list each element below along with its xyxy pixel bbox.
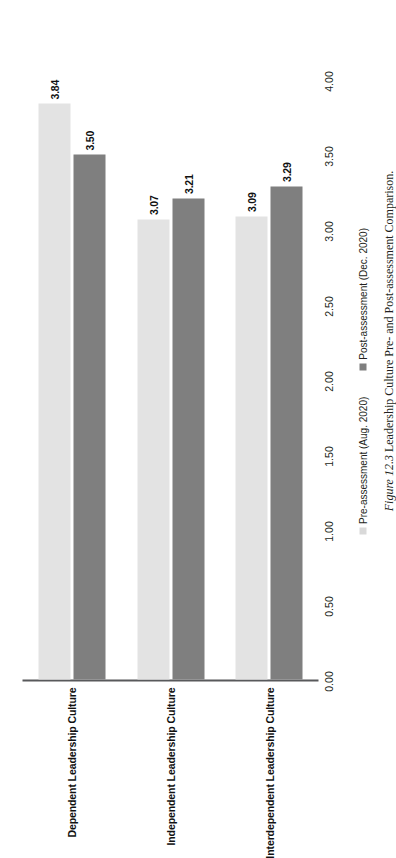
bar-post-1 [172, 198, 204, 680]
bar-pre-0 [38, 104, 70, 680]
legend-item-1: Post-assessment (Dec. 2020) [357, 228, 368, 371]
figure-number: Figure 12.3 [381, 455, 395, 511]
tick-label: 1.50 [322, 446, 334, 466]
figure-caption-text: Leadership Culture Pre- and Post-assessm… [381, 170, 395, 451]
bar-value-label: 3.21 [182, 174, 194, 194]
tick-label: 3.00 [322, 221, 334, 241]
tick-label: 1.00 [322, 521, 334, 541]
bar-pre-2 [235, 216, 267, 680]
figure-caption: Figure 12.3 Leadership Culture Pre- and … [381, 21, 396, 661]
bar-post-2 [270, 186, 302, 680]
category-label-0: Dependent Leadership Culture [65, 687, 77, 837]
bar-pre-1 [137, 219, 169, 680]
bar-value-label: 3.29 [280, 162, 292, 182]
bar-value-label: 3.84 [48, 79, 60, 99]
tick-label: 3.50 [322, 146, 334, 166]
tick-label: 0.50 [322, 596, 334, 616]
square-swatch-icon [359, 363, 366, 370]
category-label-2: Interdependent Leadership Culture [263, 687, 275, 858]
square-swatch-icon [359, 528, 366, 535]
tick-label: 2.00 [322, 371, 334, 391]
legend-label: Pre-assessment (Aug. 2020) [357, 396, 368, 523]
legend-item-0: Pre-assessment (Aug. 2020) [357, 396, 368, 534]
bar-value-label: 3.50 [83, 130, 95, 150]
tick-label: 0.00 [322, 671, 334, 691]
bar-value-label: 3.07 [147, 195, 159, 215]
value-axis-tick-labels: 0.000.501.001.502.002.503.003.504.00 [318, 81, 348, 681]
chart-plot-area: 3.843.503.073.213.093.29 [22, 81, 318, 681]
bar-value-label: 3.09 [245, 192, 257, 212]
chart-legend: Pre-assessment (Aug. 2020)Post-assessmen… [350, 81, 374, 681]
tick-label: 4.00 [322, 71, 334, 91]
legend-label: Post-assessment (Dec. 2020) [357, 228, 368, 360]
tick-label: 2.50 [322, 296, 334, 316]
bar-post-0 [73, 155, 105, 680]
category-label-1: Independent Leadership Culture [164, 687, 176, 845]
